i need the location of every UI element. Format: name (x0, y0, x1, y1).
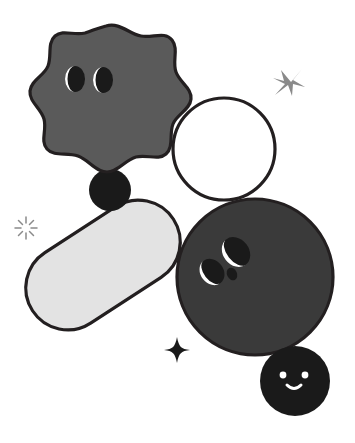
blob-body (30, 25, 191, 172)
black-smiley-body (260, 346, 330, 416)
x-cross-sparkle-glyph (273, 69, 305, 96)
four-point-star-sparkle (164, 337, 190, 363)
blob-right-eye (93, 67, 113, 93)
x-cross-sparkle (273, 69, 305, 96)
burst-ray-nw (19, 221, 23, 225)
white-outline-circle (173, 98, 275, 200)
wavy-blob-character (30, 25, 191, 172)
illustration-svg (0, 0, 355, 443)
dark-circle-body (177, 199, 333, 355)
outline-circle-body (173, 98, 275, 200)
four-point-star-glyph (164, 337, 190, 363)
burst-ray-se (30, 232, 34, 236)
radial-burst-sparkle (15, 217, 37, 239)
burst-ray-ne (30, 221, 34, 225)
blob-left-eye (65, 66, 85, 92)
black-smiley-circle (260, 346, 330, 416)
black-accent-circle (89, 169, 131, 211)
dark-gray-circle-character (177, 199, 333, 355)
black-smiley-left-eye (280, 372, 287, 379)
illustration-canvas (0, 0, 355, 443)
black-smiley-right-eye (302, 372, 309, 379)
black-accent-circle-body (89, 169, 131, 211)
burst-ray-sw (19, 232, 23, 236)
